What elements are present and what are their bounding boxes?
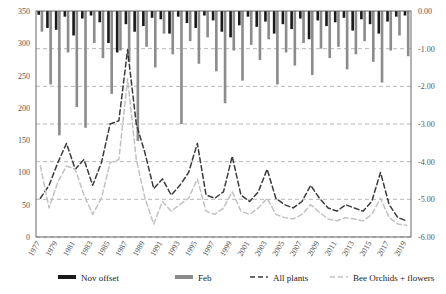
svg-text:2017: 2017	[375, 240, 391, 258]
svg-text:2013: 2013	[340, 240, 356, 258]
svg-text:1997: 1997	[201, 240, 217, 258]
svg-text:2003: 2003	[253, 240, 269, 258]
svg-text:2019: 2019	[393, 240, 409, 258]
legend-item-3: Bee Orchids + flowers	[330, 273, 435, 283]
x-axis-labels: 1977197919811983198519871989199119931995…	[26, 240, 408, 258]
svg-text:1989: 1989	[131, 240, 147, 258]
svg-text:0: 0	[26, 233, 30, 242]
svg-text:50: 50	[22, 201, 30, 210]
svg-text:1983: 1983	[79, 240, 95, 258]
svg-text:-4.00: -4.00	[418, 158, 435, 167]
legend-label: All plants	[273, 273, 309, 283]
bar-series-group	[37, 11, 409, 141]
svg-text:200: 200	[18, 104, 30, 113]
svg-text:1993: 1993	[166, 240, 182, 258]
svg-text:2009: 2009	[305, 240, 321, 258]
svg-text:0.00: 0.00	[418, 7, 432, 16]
chart-legend: Nov offsetFebAll plantsBee Orchids + flo…	[58, 273, 435, 283]
svg-text:1999: 1999	[218, 240, 234, 258]
svg-text:2007: 2007	[288, 240, 304, 258]
legend-item-0: Nov offset	[58, 273, 120, 283]
chart-svg: 050100150200250300350 0.00-1.00-2.00-3.0…	[0, 0, 446, 294]
svg-text:2011: 2011	[323, 240, 339, 258]
svg-text:-6.00: -6.00	[418, 233, 435, 242]
chart-container: 050100150200250300350 0.00-1.00-2.00-3.0…	[0, 0, 446, 294]
svg-text:100: 100	[18, 168, 30, 177]
legend-label: Nov offset	[81, 273, 120, 283]
svg-text:300: 300	[18, 39, 30, 48]
svg-text:-1.00: -1.00	[418, 45, 435, 54]
svg-text:2005: 2005	[270, 240, 286, 258]
svg-text:-2.00: -2.00	[418, 82, 435, 91]
svg-text:-5.00: -5.00	[418, 195, 435, 204]
svg-text:150: 150	[18, 136, 30, 145]
legend-label: Feb	[198, 273, 212, 283]
y-axis-right-labels: 0.00-1.00-2.00-3.00-4.00-5.00-6.00	[418, 7, 435, 242]
svg-text:1979: 1979	[44, 240, 60, 258]
svg-text:1981: 1981	[61, 240, 77, 258]
svg-text:1991: 1991	[148, 240, 164, 258]
svg-text:350: 350	[18, 7, 30, 16]
svg-text:1977: 1977	[26, 240, 42, 258]
svg-text:2015: 2015	[358, 240, 374, 258]
legend-item-2: All plants	[250, 273, 309, 283]
svg-text:-3.00: -3.00	[418, 120, 435, 129]
svg-text:2001: 2001	[236, 240, 252, 258]
svg-text:1985: 1985	[96, 240, 112, 258]
legend-item-1: Feb	[175, 273, 212, 283]
legend-label: Bee Orchids + flowers	[353, 273, 435, 283]
svg-text:1995: 1995	[183, 240, 199, 258]
y-axis-left-labels: 050100150200250300350	[18, 7, 30, 242]
svg-text:1987: 1987	[114, 240, 130, 258]
svg-text:250: 250	[18, 72, 30, 81]
